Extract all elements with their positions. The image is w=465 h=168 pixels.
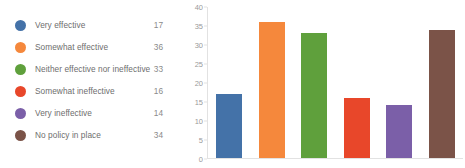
bar-slot: [208, 7, 251, 158]
legend-item[interactable]: Neither effective nor ineffective 33: [0, 58, 185, 80]
legend-item-value: 33: [154, 64, 163, 74]
legend-item-value: 16: [154, 86, 163, 96]
x-axis-line: [207, 158, 463, 159]
legend-dot-icon: [15, 64, 26, 75]
bar-slot: [378, 7, 421, 158]
legend-item-value: 34: [154, 130, 163, 140]
legend-item[interactable]: Very effective 17: [0, 14, 185, 36]
bar-slot: [421, 7, 464, 158]
legend-dot-icon: [15, 130, 26, 141]
bar[interactable]: [344, 98, 370, 158]
legend-item-label: Somewhat effective: [35, 42, 108, 52]
chart-legend: Very effective 17 Somewhat effective 36 …: [0, 0, 185, 168]
legend-item-label: Neither effective nor ineffective: [35, 64, 150, 74]
y-axis-tick-mark: [204, 7, 207, 8]
legend-item-value: 36: [154, 42, 163, 52]
y-axis-tick-label: 25: [195, 60, 203, 69]
y-axis-tick-label: 20: [195, 79, 203, 88]
y-axis-tick-mark: [204, 159, 207, 160]
bar[interactable]: [259, 22, 285, 158]
y-axis-tick-mark: [204, 64, 207, 65]
y-axis-tick-label: 10: [195, 117, 203, 126]
bar-slot: [251, 7, 294, 158]
legend-item[interactable]: Somewhat ineffective 16: [0, 80, 185, 102]
legend-item[interactable]: Very ineffective 14: [0, 102, 185, 124]
legend-dot-icon: [15, 86, 26, 97]
y-axis-tick-label: 5: [199, 136, 203, 145]
legend-dot-icon: [15, 108, 26, 119]
bar-slot: [336, 7, 379, 158]
legend-dot-icon: [15, 20, 26, 31]
legend-item-value: 14: [154, 108, 163, 118]
legend-item[interactable]: No policy in place 34: [0, 124, 185, 146]
y-axis-tick-mark: [204, 140, 207, 141]
bar[interactable]: [301, 33, 327, 158]
chart-panel: Very effective 17 Somewhat effective 36 …: [0, 0, 465, 168]
y-axis-tick-mark: [204, 26, 207, 27]
plot-area: 0510152025303540: [207, 7, 463, 159]
legend-item-label: Somewhat ineffective: [35, 86, 115, 96]
bar-chart: 0510152025303540: [185, 0, 465, 168]
bar-series: [208, 7, 463, 158]
y-axis-tick-mark: [204, 121, 207, 122]
legend-dot-icon: [15, 42, 26, 53]
bar[interactable]: [429, 30, 455, 158]
legend-item-value: 17: [154, 20, 163, 30]
bar[interactable]: [216, 94, 242, 158]
y-axis-tick-mark: [204, 102, 207, 103]
y-axis-tick-label: 35: [195, 22, 203, 31]
y-axis-tick-label: 40: [195, 3, 203, 12]
y-axis-tick-label: 15: [195, 98, 203, 107]
y-axis-tick-mark: [204, 83, 207, 84]
y-axis-tick-label: 0: [199, 155, 203, 164]
legend-item-label: No policy in place: [35, 130, 101, 140]
bar-slot: [293, 7, 336, 158]
legend-item[interactable]: Somewhat effective 36: [0, 36, 185, 58]
bar[interactable]: [386, 105, 412, 158]
y-axis-tick-label: 30: [195, 41, 203, 50]
legend-item-label: Very ineffective: [35, 108, 92, 118]
legend-item-label: Very effective: [35, 20, 85, 30]
y-axis-tick-mark: [204, 45, 207, 46]
